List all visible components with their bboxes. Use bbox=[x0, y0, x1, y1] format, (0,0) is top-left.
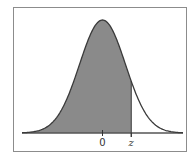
normal-distribution-chart: 0 z bbox=[0, 0, 195, 160]
tick-label-z: z bbox=[128, 137, 135, 148]
tick-label-zero: 0 bbox=[99, 137, 105, 148]
